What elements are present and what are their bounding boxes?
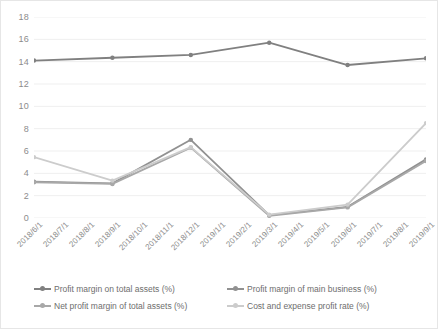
data-point-marker <box>345 63 349 67</box>
x-tick-label: 2019/1/1 <box>198 220 227 249</box>
data-point-marker <box>424 56 426 60</box>
series-line-0 <box>34 43 426 65</box>
legend-item-1[interactable]: Profit margin of main business (%) <box>227 282 377 296</box>
legend-label-2: Net profit margin of total assets (%) <box>54 301 187 311</box>
y-tick-label: 8 <box>24 124 29 134</box>
y-tick-label: 2 <box>24 191 29 201</box>
y-tick-label: 14 <box>19 57 29 67</box>
legend-item-2[interactable]: Net profit margin of total assets (%) <box>34 299 217 313</box>
x-axis-tick-labels: 2018/6/12018/7/12018/8/12018/9/12018/10/… <box>34 220 426 278</box>
y-tick-label: 10 <box>19 101 29 111</box>
x-tick-label: 2018/7/1 <box>42 220 71 249</box>
legend-item-0[interactable]: Profit margin on total assets (%) <box>34 282 217 296</box>
y-tick-label: 12 <box>19 79 29 89</box>
y-tick-label: 0 <box>24 213 29 223</box>
data-point-marker <box>34 155 36 159</box>
legend-label-0: Profit margin on total assets (%) <box>54 284 175 294</box>
legend-label-3: Cost and expense profit rate (%) <box>247 301 369 311</box>
series-line-3 <box>34 123 426 215</box>
legend-marker-icon-3 <box>227 302 244 310</box>
x-tick-label: 2019/3/1 <box>251 220 280 249</box>
x-tick-label: 2018/8/1 <box>68 220 97 249</box>
legend-marker-icon-2 <box>34 302 51 310</box>
x-tick-label: 2019/6/1 <box>329 220 358 249</box>
legend-label-1: Profit margin of main business (%) <box>247 284 377 294</box>
y-tick-label: 6 <box>24 146 29 156</box>
legend-marker-icon-0 <box>34 285 51 293</box>
y-tick-label: 4 <box>24 168 29 178</box>
x-tick-label: 2018/6/1 <box>15 220 44 249</box>
data-point-marker <box>267 40 271 44</box>
chart-legend: Profit margin on total assets (%) Profit… <box>34 282 426 316</box>
data-point-marker <box>110 56 114 60</box>
data-point-marker <box>34 58 36 62</box>
legend-item-3[interactable]: Cost and expense profit rate (%) <box>227 299 369 313</box>
x-tick-label: 2019/2/1 <box>224 220 253 249</box>
legend-marker-icon-1 <box>227 285 244 293</box>
data-point-marker <box>189 53 193 57</box>
data-point-marker <box>189 138 193 142</box>
y-axis-tick-labels: 024681012141618 <box>1 17 29 218</box>
data-point-marker <box>345 202 349 206</box>
series-line-1 <box>34 140 426 215</box>
x-tick-label: 2019/7/1 <box>355 220 384 249</box>
plot-area <box>34 17 426 218</box>
series-lines <box>34 17 426 218</box>
x-tick-label: 2019/4/1 <box>277 220 306 249</box>
line-chart-card: 024681012141618 2018/6/12018/7/12018/8/1… <box>0 0 438 329</box>
x-tick-label: 2019/5/1 <box>303 220 332 249</box>
y-tick-label: 18 <box>19 12 29 22</box>
x-tick-label: 2019/8/1 <box>381 220 410 249</box>
data-point-marker <box>267 212 271 216</box>
data-point-marker <box>110 178 114 182</box>
x-tick-label: 2019/9/1 <box>407 220 436 249</box>
data-point-marker <box>189 145 193 149</box>
y-tick-label: 16 <box>19 34 29 44</box>
